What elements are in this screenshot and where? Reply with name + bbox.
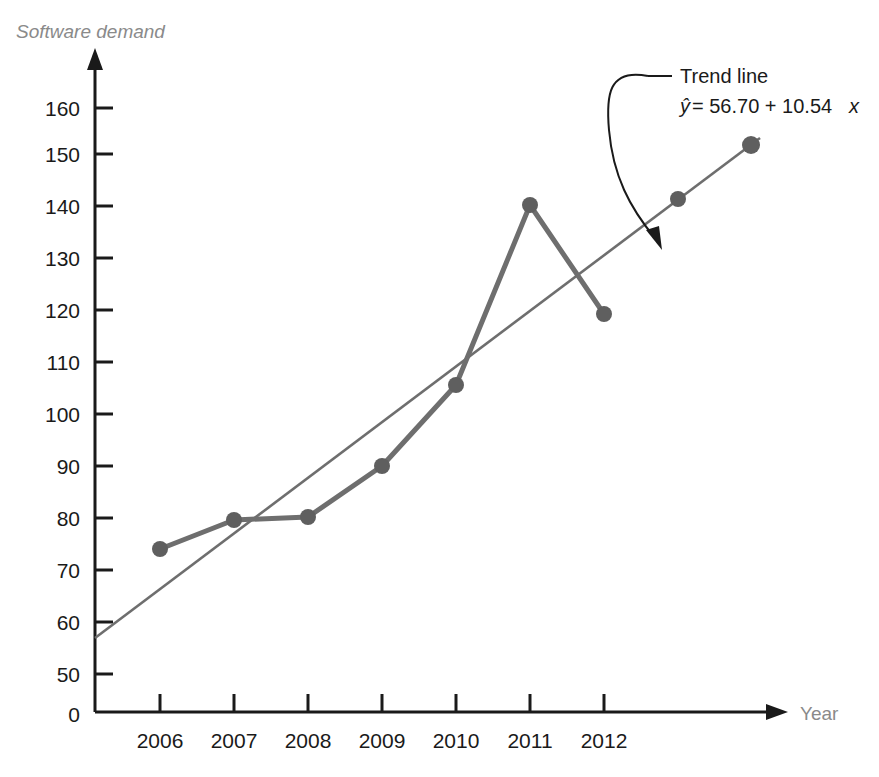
data-point-2008 — [300, 509, 316, 525]
data-point-2012 — [596, 306, 612, 322]
trend-line-path — [95, 138, 760, 638]
data-point-2011 — [522, 197, 538, 213]
callout-curved-arrow-path — [608, 75, 655, 238]
y-axis-title: Software demand — [16, 21, 166, 42]
y-tick-label-130: 130 — [45, 247, 80, 270]
y-tick-label-80: 80 — [57, 507, 80, 530]
trend-line-series — [95, 136, 760, 638]
y-tick-label-70: 70 — [57, 559, 80, 582]
y-tick-label-100: 100 — [45, 403, 80, 426]
y-tick-label-60: 60 — [57, 611, 80, 634]
x-tick-label-2010: 2010 — [433, 729, 480, 752]
callout-arrowhead-icon — [646, 226, 662, 250]
x-tick-label-2012: 2012 — [581, 729, 628, 752]
y-tick-label-0: 0 — [68, 703, 80, 726]
trend-marker-forecast-1 — [670, 191, 686, 207]
callout-equation-body: = 56.70 + 10.54 — [692, 95, 832, 117]
callout-title: Trend line — [680, 65, 768, 87]
y-tick-label-150: 150 — [45, 143, 80, 166]
y-axis-group: 160 150 140 130 120 110 100 90 80 70 60 … — [16, 21, 166, 726]
demand-series-path — [160, 205, 604, 549]
data-point-2010 — [448, 377, 464, 393]
callout-equation: ŷ = 56.70 + 10.54 x — [678, 95, 860, 117]
x-tick-label-2011: 2011 — [507, 729, 552, 752]
data-point-2007 — [226, 512, 242, 528]
data-point-2006 — [152, 541, 168, 557]
y-axis-arrowhead-icon — [87, 48, 103, 70]
y-tick-label-90: 90 — [57, 455, 80, 478]
x-axis-arrowhead-icon — [766, 704, 788, 720]
y-tick-label-110: 110 — [47, 351, 80, 374]
trend-marker-forecast-2 — [742, 136, 760, 154]
x-tick-label-2006: 2006 — [137, 729, 184, 752]
x-tick-label-2009: 2009 — [359, 729, 406, 752]
x-axis-group: 2006 2007 2008 2009 2010 2011 2012 Year — [95, 694, 839, 752]
y-tick-label-50: 50 — [57, 663, 80, 686]
software-demand-trend-chart: 160 150 140 130 120 110 100 90 80 70 60 … — [0, 0, 879, 777]
callout-equation-xvar: x — [848, 95, 860, 117]
y-tick-label-160: 160 — [45, 97, 80, 120]
data-point-2009 — [374, 458, 390, 474]
y-tick-label-120: 120 — [45, 299, 80, 322]
x-axis-title: Year — [800, 703, 839, 724]
x-tick-label-2007: 2007 — [211, 729, 258, 752]
x-tick-label-2008: 2008 — [285, 729, 332, 752]
callout-equation-yhat: ŷ — [678, 95, 691, 117]
y-tick-label-140: 140 — [45, 195, 80, 218]
chart-container: 160 150 140 130 120 110 100 90 80 70 60 … — [0, 0, 879, 777]
demand-series — [152, 197, 612, 557]
